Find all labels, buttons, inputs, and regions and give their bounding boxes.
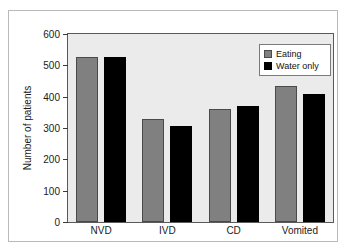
figure-frame: Number of patients 0100200300400500600 N… — [8, 10, 338, 242]
bar-nvd-water-only — [104, 57, 126, 222]
y-axis-tick-label: 0 — [54, 217, 60, 228]
y-axis-tick — [63, 97, 68, 98]
y-axis-tick — [63, 65, 68, 66]
bar-vomited-water-only — [303, 94, 325, 222]
x-axis-tick-label-ivd: IVD — [159, 225, 176, 236]
bar-nvd-eating — [76, 57, 98, 222]
legend-item: Water only — [264, 60, 326, 72]
x-axis-tick-label-cd: CD — [226, 225, 240, 236]
y-axis-tick — [63, 159, 68, 160]
y-axis-tick-label: 400 — [43, 91, 60, 102]
y-axis-tick — [63, 191, 68, 192]
legend-item-label: Eating — [276, 49, 302, 59]
y-axis-tick-label: 100 — [43, 185, 60, 196]
y-axis-tick — [63, 222, 68, 223]
legend-item-label: Water only — [276, 61, 319, 71]
bar-ivd-water-only — [170, 126, 192, 223]
y-axis-tick-label: 200 — [43, 154, 60, 165]
x-axis-tick-label-vomited: Vomited — [282, 225, 318, 236]
gray-square-swatch-icon — [264, 50, 272, 58]
bar-cd-water-only — [237, 106, 259, 222]
y-axis-tick-label: 500 — [43, 60, 60, 71]
y-axis-tick-label: 600 — [43, 29, 60, 40]
figure: Number of patients 0100200300400500600 N… — [0, 0, 347, 251]
bar-vomited-eating — [275, 86, 297, 222]
y-axis-tick-label: 300 — [43, 123, 60, 134]
bar-cd-eating — [209, 109, 231, 222]
x-axis-tick-label-nvd: NVD — [91, 225, 112, 236]
black-square-swatch-icon — [264, 62, 272, 70]
legend-item: Eating — [264, 48, 326, 60]
legend: Eating Water only — [259, 44, 331, 76]
y-axis-tick — [63, 128, 68, 129]
y-axis-tick — [63, 34, 68, 35]
y-axis-label: Number of patients — [21, 33, 35, 223]
bar-ivd-eating — [142, 119, 164, 222]
